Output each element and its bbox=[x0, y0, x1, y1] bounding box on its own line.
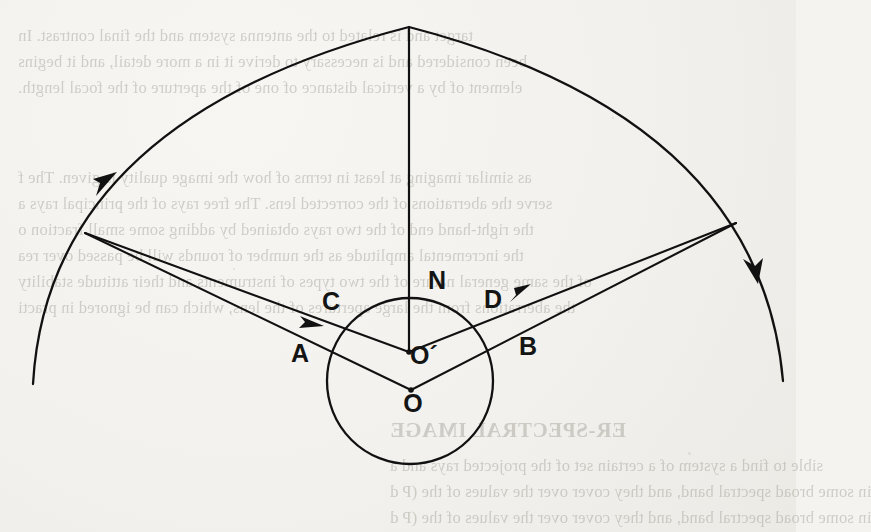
left-upper-ray bbox=[85, 233, 409, 352]
label-O: O bbox=[403, 389, 422, 417]
label-D: D bbox=[484, 285, 502, 313]
label-A: A bbox=[291, 339, 309, 367]
label-O-prime: O´ bbox=[410, 341, 438, 369]
label-C: C bbox=[322, 287, 340, 315]
ray-arrow-from-d-icon bbox=[510, 284, 531, 302]
left-lower-ray bbox=[85, 233, 411, 390]
label-B: B bbox=[519, 332, 537, 360]
ray-arrow-toward-c-icon bbox=[299, 316, 324, 328]
right-upper-ray bbox=[409, 223, 736, 352]
right-lower-ray bbox=[411, 223, 736, 390]
label-N: N bbox=[428, 266, 446, 294]
